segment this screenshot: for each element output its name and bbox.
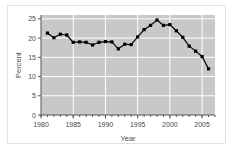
- data-point-marker: [181, 36, 184, 39]
- data-point-marker: [91, 43, 94, 46]
- data-point-marker: [85, 41, 88, 44]
- x-tick-label: 1995: [130, 121, 146, 128]
- data-point-marker: [97, 41, 100, 44]
- x-axis-title: Year: [120, 134, 136, 143]
- chart-figure: 0510152025198019851990199520002005YearPe…: [0, 0, 233, 153]
- data-point-marker: [188, 45, 191, 48]
- data-point-marker: [194, 50, 197, 53]
- line-chart: 0510152025198019851990199520002005YearPe…: [0, 0, 233, 153]
- data-point-marker: [117, 47, 120, 50]
- y-axis-title: Percent: [14, 51, 23, 78]
- y-axis-ticks: 0510152025: [28, 15, 41, 118]
- data-point-marker: [59, 33, 62, 36]
- plot-wrapper: 0510152025198019851990199520002005YearPe…: [0, 0, 233, 153]
- data-point-marker: [104, 40, 107, 43]
- data-point-marker: [65, 33, 68, 36]
- y-tick-label: 25: [28, 15, 36, 22]
- data-point-marker: [168, 23, 171, 26]
- y-tick-label: 5: [32, 92, 36, 99]
- data-point-marker: [136, 35, 139, 38]
- data-point-marker: [162, 24, 165, 27]
- data-point-marker: [175, 29, 178, 32]
- y-tick-label: 10: [28, 73, 36, 80]
- data-point-marker: [207, 67, 210, 70]
- plot-area-background: [41, 15, 215, 115]
- x-tick-label: 1985: [65, 121, 81, 128]
- data-point-marker: [52, 36, 55, 39]
- y-tick-label: 20: [28, 35, 36, 42]
- y-tick-label: 15: [28, 54, 36, 61]
- data-point-marker: [123, 43, 126, 46]
- data-point-marker: [78, 40, 81, 43]
- x-tick-label: 2005: [194, 121, 210, 128]
- y-tick-label: 0: [32, 112, 36, 119]
- x-axis-ticks: 198019851990199520002005: [33, 115, 210, 128]
- x-tick-label: 1990: [98, 121, 114, 128]
- data-point-marker: [130, 43, 133, 46]
- x-tick-label: 1980: [33, 121, 49, 128]
- data-point-marker: [72, 41, 75, 44]
- data-point-marker: [143, 28, 146, 31]
- data-point-marker: [201, 55, 204, 58]
- data-point-marker: [155, 18, 158, 21]
- data-point-marker: [46, 31, 49, 34]
- x-tick-label: 2000: [162, 121, 178, 128]
- data-point-marker: [149, 24, 152, 27]
- data-point-marker: [110, 40, 113, 43]
